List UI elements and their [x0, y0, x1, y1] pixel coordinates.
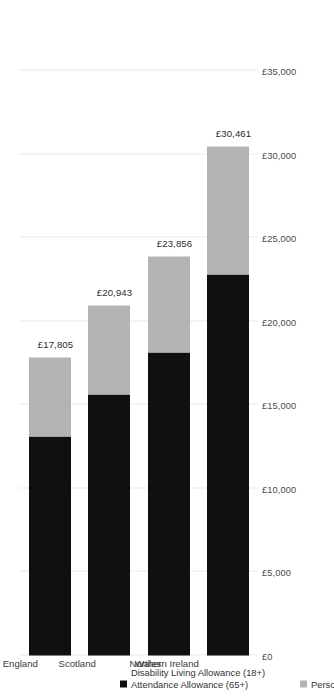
- legend-item-2[interactable]: Personal Independence Payment (16+): [300, 679, 334, 688]
- bar-segment-2[interactable]: [88, 305, 130, 394]
- axis-tick-label: £10,000: [262, 484, 296, 494]
- bar-england[interactable]: [29, 70, 71, 655]
- axis-tick-label: £35,000: [262, 66, 296, 76]
- data-label: £30,461: [216, 127, 251, 138]
- axis-tick-label: £0: [262, 651, 273, 661]
- value-axis: £35,000£30,000£25,000£20,000£15,000£10,0…: [262, 70, 332, 655]
- category-label-england: England: [2, 658, 37, 669]
- legend-label: Personal Independence Payment (16+): [311, 679, 334, 688]
- legend-item-1[interactable]: Disability Living Allowance (18+): [120, 667, 265, 676]
- bar-segment-2[interactable]: [29, 357, 71, 436]
- bar-segment-2[interactable]: [207, 146, 249, 274]
- bar-scotland[interactable]: [88, 70, 130, 655]
- bar-segment-0[interactable]: [88, 394, 130, 655]
- axis-tick-label: £5,000: [262, 567, 291, 577]
- legend-label: Disability Living Allowance (18+): [131, 667, 265, 676]
- legend-item-0[interactable]: Attendance Allowance (65+): [120, 679, 248, 688]
- legend-swatch-icon: [300, 680, 307, 687]
- legend-swatch-icon: [120, 668, 127, 675]
- data-label: £23,856: [157, 238, 192, 249]
- axis-tick-label: £15,000: [262, 400, 296, 410]
- bar-northern-ireland[interactable]: [207, 70, 249, 655]
- legend-swatch-icon: [120, 680, 127, 687]
- bar-segment-0[interactable]: [29, 436, 71, 655]
- legend-label: Attendance Allowance (65+): [131, 679, 248, 688]
- bar-wales[interactable]: [148, 70, 190, 655]
- category-label-scotland: Scotland: [59, 658, 96, 669]
- data-label: £20,943: [97, 286, 132, 297]
- plot-area: £17,805£20,943£23,856£30,461: [20, 70, 258, 655]
- data-label: £17,805: [38, 339, 73, 350]
- bar-segment-0[interactable]: [148, 352, 190, 655]
- axis-tick-label: £30,000: [262, 150, 296, 160]
- bar-segment-0[interactable]: [207, 274, 249, 655]
- axis-tick-label: £25,000: [262, 233, 296, 243]
- axis-tick-label: £20,000: [262, 317, 296, 327]
- chart-canvas: £17,805£20,943£23,856£30,461 £35,000£30,…: [0, 0, 334, 697]
- bar-segment-2[interactable]: [148, 256, 190, 351]
